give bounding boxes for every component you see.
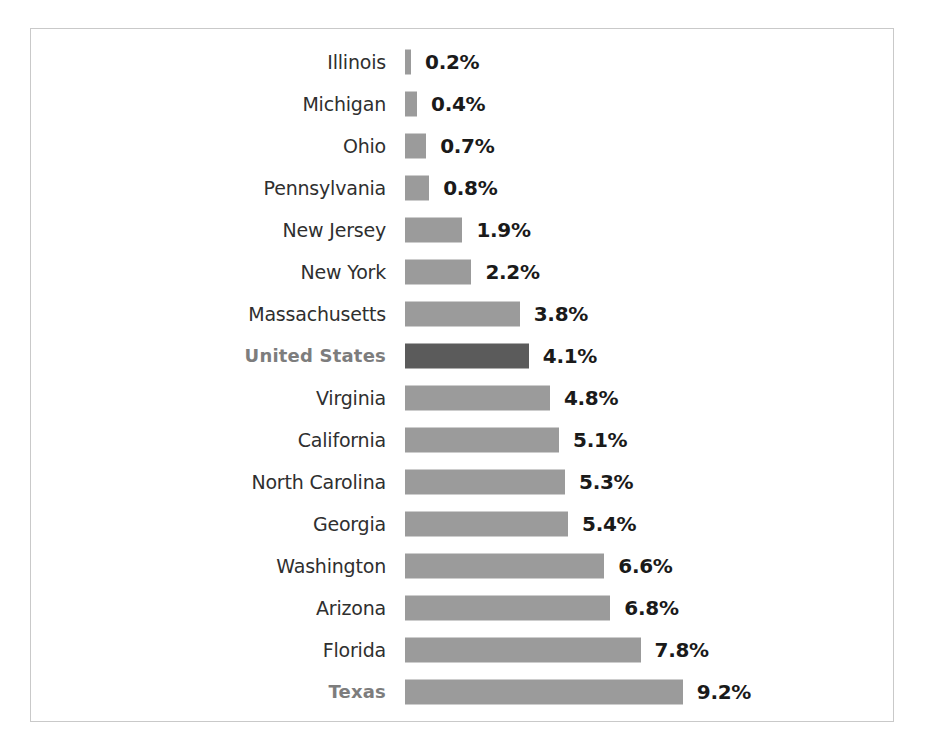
bar-category-label: Pennsylvania: [31, 179, 386, 198]
bar-category-label: Texas: [31, 683, 386, 701]
bar-category-label: United States: [31, 347, 386, 365]
bar: [405, 680, 683, 705]
bar-track: [405, 176, 429, 201]
bar: [405, 512, 568, 537]
bar: [405, 470, 565, 495]
chart-frame: Illinois0.2%Michigan0.4%Ohio0.7%Pennsylv…: [30, 28, 894, 722]
bar-value-label: 9.2%: [697, 682, 751, 702]
bar-value-label: 5.3%: [579, 472, 633, 492]
bar-row: New York2.2%: [31, 251, 893, 293]
bar-track: [405, 260, 471, 285]
bar-category-label: Michigan: [31, 95, 386, 114]
bar-value-label: 0.4%: [431, 94, 485, 114]
bar-value-label: 0.2%: [425, 52, 479, 72]
bar: [405, 302, 520, 327]
bar-value-label: 4.1%: [543, 346, 597, 366]
bar-value-label: 4.8%: [564, 388, 618, 408]
bar-row: Illinois0.2%: [31, 41, 893, 83]
bar-value-label: 6.6%: [618, 556, 672, 576]
bar: [405, 596, 610, 621]
bar-track: [405, 134, 426, 159]
bar-value-label: 1.9%: [476, 220, 530, 240]
bar-row: California5.1%: [31, 419, 893, 461]
bar-row: North Carolina5.3%: [31, 461, 893, 503]
bar: [405, 554, 604, 579]
bar-category-label: Ohio: [31, 137, 386, 156]
bar-category-label: North Carolina: [31, 473, 386, 492]
bar-row: Virginia4.8%: [31, 377, 893, 419]
bar: [405, 386, 550, 411]
bar-row: Michigan0.4%: [31, 83, 893, 125]
bar: [405, 638, 641, 663]
bar: [405, 134, 426, 159]
bar: [405, 218, 462, 243]
bar-category-label: Florida: [31, 641, 386, 660]
bar-track: [405, 344, 529, 369]
bar-category-label: Illinois: [31, 53, 386, 72]
bar-row: Arizona6.8%: [31, 587, 893, 629]
bar-value-label: 5.1%: [573, 430, 627, 450]
bar-track: [405, 512, 568, 537]
bar-value-label: 6.8%: [624, 598, 678, 618]
bar-category-label: New York: [31, 263, 386, 282]
bar-value-label: 0.7%: [440, 136, 494, 156]
bar-track: [405, 596, 610, 621]
bar-track: [405, 638, 641, 663]
bar: [405, 260, 471, 285]
bar-track: [405, 554, 604, 579]
bar-category-label: Massachusetts: [31, 305, 386, 324]
bar: [405, 50, 411, 75]
bar-value-label: 3.8%: [534, 304, 588, 324]
bar-track: [405, 386, 550, 411]
bar-track: [405, 302, 520, 327]
bar-row: Massachusetts3.8%: [31, 293, 893, 335]
bar-row: Florida7.8%: [31, 629, 893, 671]
bar-category-label: Washington: [31, 557, 386, 576]
bar-track: [405, 92, 417, 117]
bar-category-label: Georgia: [31, 515, 386, 534]
bar: [405, 176, 429, 201]
bar-track: [405, 428, 559, 453]
bar-chart-plot-area: Illinois0.2%Michigan0.4%Ohio0.7%Pennsylv…: [31, 29, 893, 721]
bar-track: [405, 470, 565, 495]
bar-row: Georgia5.4%: [31, 503, 893, 545]
bar-row: Texas9.2%: [31, 671, 893, 713]
bar: [405, 428, 559, 453]
bar: [405, 344, 529, 369]
bar-category-label: Arizona: [31, 599, 386, 618]
bar-row: Pennsylvania0.8%: [31, 167, 893, 209]
bar-category-label: Virginia: [31, 389, 386, 408]
bar-row: Washington6.6%: [31, 545, 893, 587]
bar-track: [405, 680, 683, 705]
bar-value-label: 7.8%: [655, 640, 709, 660]
bar-value-label: 0.8%: [443, 178, 497, 198]
bar-track: [405, 50, 411, 75]
bar-category-label: California: [31, 431, 386, 450]
bar: [405, 92, 417, 117]
bar-row: United States4.1%: [31, 335, 893, 377]
bar-category-label: New Jersey: [31, 221, 386, 240]
bar-track: [405, 218, 462, 243]
bar-row: New Jersey1.9%: [31, 209, 893, 251]
bar-value-label: 5.4%: [582, 514, 636, 534]
bar-row: Ohio0.7%: [31, 125, 893, 167]
bar-value-label: 2.2%: [485, 262, 539, 282]
